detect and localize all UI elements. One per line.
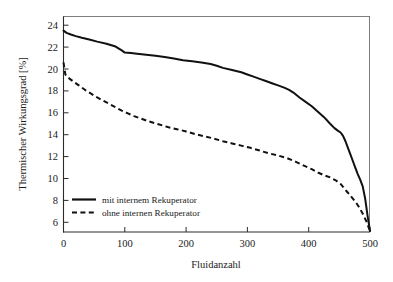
x-tick-label-500: 500 (362, 238, 378, 249)
y-tick-label-14: 14 (48, 129, 59, 140)
y-tick-label-18: 18 (48, 85, 59, 96)
figure-container: 6 8 10 12 14 16 18 20 22 24 0 1 (0, 0, 393, 282)
legend-label-1: ohne internen Rekuperator (102, 208, 200, 218)
x-tick-label-400: 400 (301, 238, 317, 249)
x-tick-label-200: 200 (178, 238, 194, 249)
y-tick-label-6: 6 (53, 217, 58, 228)
chart-background (0, 0, 393, 282)
thermal-efficiency-line-chart: 6 8 10 12 14 16 18 20 22 24 0 1 (0, 0, 393, 282)
y-tick-label-12: 12 (48, 151, 59, 162)
y-tick-label-20: 20 (48, 64, 59, 75)
y-axis-title: Thermischer Wirkungsgrad [%] (17, 57, 28, 191)
x-tick-label-0: 0 (61, 238, 66, 249)
x-tick-label-300: 300 (240, 238, 256, 249)
x-axis-title: Fluidanzahl (191, 259, 241, 270)
x-tick-label-100: 100 (117, 238, 133, 249)
y-tick-label-22: 22 (48, 42, 59, 53)
y-tick-label-24: 24 (48, 20, 59, 31)
y-tick-label-10: 10 (48, 173, 59, 184)
legend-label-0: mit internem Rekuperator (102, 195, 197, 205)
y-tick-label-16: 16 (48, 107, 59, 118)
y-tick-label-8: 8 (53, 195, 58, 206)
